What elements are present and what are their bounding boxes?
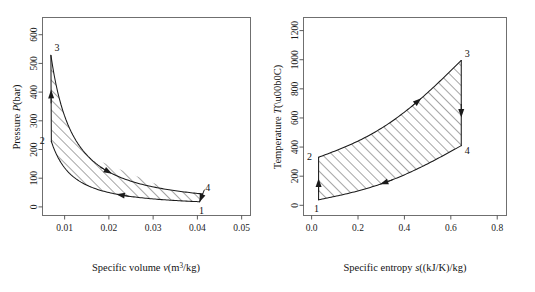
thermodynamic-cycle-figure: 0.010.020.030.040.050100200300400500600 … — [0, 0, 535, 292]
y-tick-label: 1200 — [290, 21, 300, 40]
state-point-1: 1 — [199, 205, 204, 216]
state-point-3: 3 — [54, 42, 59, 53]
y-tick-label: 0 — [29, 204, 39, 209]
x-tick-label: 0.6 — [445, 223, 457, 233]
y-tick-label: 100 — [29, 171, 39, 186]
x-tick-label: 0.2 — [352, 223, 364, 233]
ts-xaxis-title: Specific entropy s((kJ/K)/kg) — [343, 262, 467, 274]
y-tick-label: 600 — [290, 111, 300, 126]
x-tick-label: 0.03 — [145, 223, 162, 233]
x-tick-label: 0.05 — [233, 223, 250, 233]
y-tick-label: 400 — [29, 85, 39, 100]
x-tick-label: 0.01 — [56, 223, 73, 233]
state-point-1: 1 — [314, 203, 319, 214]
process-arrow — [199, 193, 205, 202]
x-tick-label: 0.0 — [306, 223, 318, 233]
state-point-2: 2 — [307, 151, 312, 162]
y-tick-label: 300 — [29, 113, 39, 128]
state-point-3: 3 — [465, 48, 470, 59]
pv-yaxis-title: Pressure P(bar) — [11, 84, 23, 150]
y-tick-label: 400 — [290, 140, 300, 155]
process-arrow-stem — [203, 190, 205, 195]
x-tick-label: 0.8 — [491, 223, 503, 233]
ts-yaxis-title: Temperature T(\u00b0C) — [272, 64, 284, 169]
y-tick-label: 0 — [290, 203, 300, 208]
pv-cycle-outline — [51, 55, 203, 201]
state-point-4: 4 — [205, 182, 210, 193]
y-tick-label: 200 — [290, 169, 300, 184]
y-tick-label: 1000 — [290, 50, 300, 69]
state-point-2: 2 — [40, 135, 45, 146]
pv-diagram-panel: 0.010.020.030.040.050100200300400500600 … — [0, 0, 268, 292]
y-tick-label: 500 — [29, 56, 39, 70]
ts-diagram-panel: 0.00.20.40.60.8020040060080010001200 123… — [266, 0, 535, 292]
x-tick-label: 0.4 — [398, 223, 410, 233]
y-tick-label: 800 — [290, 81, 300, 96]
y-tick-label: 200 — [29, 142, 39, 157]
x-tick-label: 0.02 — [101, 223, 118, 233]
pv-diagram-svg: 0.010.020.030.040.050100200300400500600 … — [0, 0, 268, 292]
ts-diagram-svg: 0.00.20.40.60.8020040060080010001200 123… — [266, 0, 535, 292]
pv-xaxis-title: Specific volume v(m3/kg) — [92, 262, 201, 274]
state-point-4: 4 — [465, 145, 470, 156]
x-tick-label: 0.04 — [189, 223, 206, 233]
y-tick-label: 600 — [29, 27, 39, 42]
